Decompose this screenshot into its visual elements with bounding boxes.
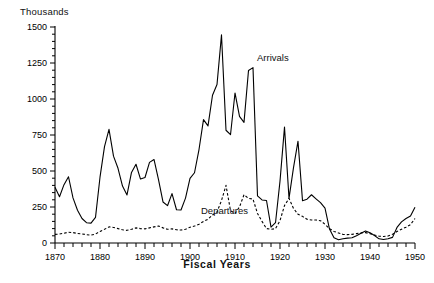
y-tick-label: 750	[32, 130, 47, 140]
y-tick-label: 1500	[27, 22, 47, 32]
y-tick-label: 250	[32, 202, 47, 212]
y-tick-label: 0	[42, 238, 47, 248]
y-axis: 0250500750100012501500	[27, 22, 55, 248]
departures-series-label: Departures	[201, 205, 248, 216]
immigration-chart: Thousands 0250500750100012501500 1870188…	[0, 0, 434, 283]
x-axis-title: Fiscal Years	[0, 258, 434, 270]
arrivals-series-label: Arrivals	[257, 52, 289, 63]
chart-plot-area: 0250500750100012501500 18701880189019001…	[0, 0, 434, 283]
y-tick-label: 500	[32, 166, 47, 176]
y-tick-label: 1000	[27, 94, 47, 104]
y-tick-label: 1250	[27, 58, 47, 68]
